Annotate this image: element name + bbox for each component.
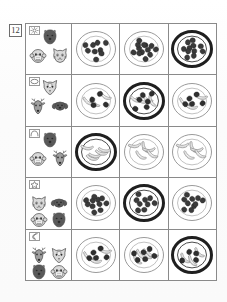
option-cell[interactable] — [169, 24, 216, 74]
monkey-face-light — [30, 211, 48, 229]
option-cell[interactable] — [169, 75, 216, 125]
plate-beans-dense[interactable] — [120, 24, 167, 74]
option-cell[interactable] — [120, 127, 168, 177]
worksheet-row — [26, 75, 216, 126]
plate-beans-bowl[interactable] — [120, 178, 167, 228]
option-cell[interactable] — [169, 230, 216, 280]
prompt-cell-row-2 — [26, 75, 72, 125]
worksheet-row — [26, 127, 216, 178]
fox-face-light — [41, 79, 59, 97]
plate-banana-beans-a[interactable] — [72, 230, 119, 280]
worksheet-row — [26, 230, 216, 280]
plate-banana-beans-bowl[interactable] — [169, 230, 216, 280]
monkey-face-light — [29, 150, 47, 168]
bear-face-dark — [41, 131, 59, 149]
plate-bananas-bowl[interactable] — [72, 127, 119, 177]
prompt-cell-row-5 — [26, 230, 72, 280]
problem-number: 12 — [9, 24, 22, 37]
bear-face-dark — [30, 263, 48, 281]
option-cell[interactable] — [72, 24, 120, 74]
plate-banana-beans-a[interactable] — [72, 75, 119, 125]
plate-bananas-c[interactable] — [169, 127, 216, 177]
option-cell[interactable] — [120, 230, 168, 280]
plate-banana-beans-bowl[interactable] — [120, 75, 167, 125]
worksheet-row — [26, 178, 216, 229]
option-cell[interactable] — [169, 127, 216, 177]
animal-face-group — [27, 76, 70, 124]
option-cell[interactable] — [72, 127, 120, 177]
dog-face-dark — [51, 98, 69, 116]
plate-beans-c[interactable] — [169, 178, 216, 228]
animal-face-group — [27, 128, 70, 176]
plate-banana-beans-c[interactable] — [169, 75, 216, 125]
prompt-cell-row-1 — [26, 24, 72, 74]
prompt-cell-row-4 — [26, 178, 72, 228]
bear-face-dark — [50, 211, 68, 229]
option-cell[interactable] — [169, 178, 216, 228]
worksheet-row — [26, 24, 216, 75]
prompt-cell-row-3 — [26, 127, 72, 177]
cat-face-light — [51, 47, 69, 65]
plate-bananas-b[interactable] — [120, 127, 167, 177]
plate-beans-sparse[interactable] — [72, 178, 119, 228]
monkey-face-light — [50, 263, 68, 281]
plate-beans-bowl[interactable] — [169, 24, 216, 74]
option-cell[interactable] — [120, 178, 168, 228]
animal-face-group — [27, 231, 70, 279]
option-cell[interactable] — [120, 24, 168, 74]
monkey-face-light — [29, 47, 47, 65]
option-cell[interactable] — [72, 178, 120, 228]
deer-face-mid — [51, 150, 69, 168]
animal-face-group — [27, 179, 70, 227]
plate-banana-beans-b[interactable] — [120, 230, 167, 280]
option-cell[interactable] — [120, 75, 168, 125]
bear-face-dark — [41, 28, 59, 46]
option-cell[interactable] — [72, 75, 120, 125]
plate-beans-sparse[interactable] — [72, 24, 119, 74]
worksheet-grid — [25, 23, 217, 281]
option-cell[interactable] — [72, 230, 120, 280]
worksheet-page: 12 — [0, 0, 227, 302]
deer-face-mid — [29, 98, 47, 116]
animal-face-group — [27, 25, 70, 73]
